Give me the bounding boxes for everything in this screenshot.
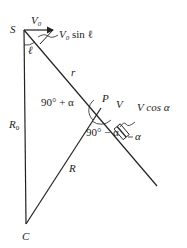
label-p: P	[101, 92, 109, 104]
label-r0: R0	[8, 118, 20, 132]
label-v: V	[116, 98, 124, 110]
angle-arc-upper	[89, 100, 94, 120]
label-v0: V0	[31, 14, 42, 28]
label-alpha: α	[135, 130, 141, 142]
label-v0-sin-l: V0 sin ℓ	[59, 28, 93, 42]
label-ell: ℓ	[28, 44, 33, 56]
line-s-c	[24, 30, 26, 224]
label-c: C	[22, 230, 30, 242]
label-v-cos-alpha: V cos α	[137, 101, 170, 113]
label-angle-upper: 90° + α	[41, 96, 74, 108]
label-big-r: R	[68, 162, 76, 174]
label-angle-lower: 90° − α	[86, 126, 119, 138]
geometry-diagram: S V0 V0 sin ℓ ℓ r 90° + α P V V cos α 90…	[0, 0, 187, 248]
label-s: S	[10, 23, 16, 35]
label-r: r	[71, 66, 76, 78]
